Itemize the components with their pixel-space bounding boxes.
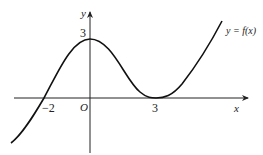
curve-label: y = f(x) bbox=[225, 25, 257, 37]
origin-label: O bbox=[80, 101, 88, 113]
y-tick-3: 3 bbox=[80, 26, 86, 40]
curve-f bbox=[11, 21, 222, 143]
x-tick-3: 3 bbox=[152, 101, 158, 115]
x-tick-neg2: −2 bbox=[42, 101, 55, 115]
x-axis-label: x bbox=[233, 102, 239, 114]
y-axis-label: y bbox=[80, 7, 86, 19]
function-graph: y x 3 −2 3 O y = f(x) bbox=[0, 0, 263, 155]
